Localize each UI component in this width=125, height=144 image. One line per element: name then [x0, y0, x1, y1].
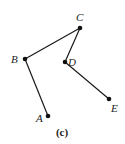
nodes-group [23, 26, 112, 119]
point-c [78, 26, 83, 31]
point-label-e: E [110, 102, 118, 114]
point-b [23, 57, 28, 62]
labels-group: ABCDE [11, 11, 118, 124]
point-label-d: D [67, 56, 76, 68]
point-label-a: A [35, 112, 43, 124]
point-label-b: B [11, 53, 18, 65]
edges-group [25, 28, 109, 116]
point-d [63, 60, 68, 65]
point-a [46, 114, 51, 119]
edge-a-b [25, 59, 48, 116]
figure-caption: (c) [56, 126, 69, 139]
polyline-diagram: ABCDE (c) [0, 0, 125, 144]
point-label-c: C [76, 11, 84, 23]
point-e [107, 97, 112, 102]
edge-b-c [25, 28, 80, 59]
